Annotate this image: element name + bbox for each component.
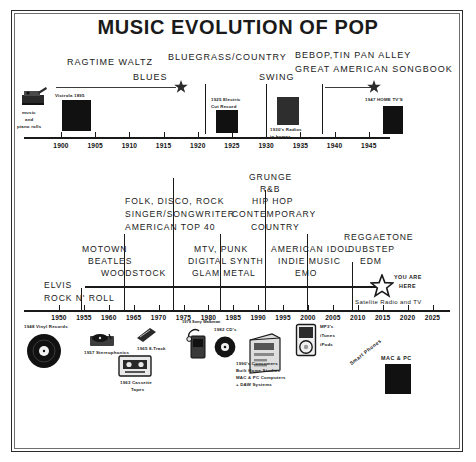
star-icon-bebop bbox=[367, 80, 381, 94]
caption-consumers-l4: + DAW Systems bbox=[236, 382, 272, 388]
caption-cassette-l2: Tapes bbox=[131, 387, 144, 393]
label-you-are-here-l1: YOU ARE bbox=[394, 274, 422, 280]
axis-tick bbox=[198, 132, 199, 137]
era-label-ragtime-line1: RAGTIME WALTZ bbox=[67, 57, 153, 67]
axis-year-label: 1970 bbox=[149, 314, 169, 321]
victrola-photo bbox=[62, 100, 91, 131]
axis-tick bbox=[84, 305, 85, 310]
mac-pc-photo bbox=[385, 364, 411, 394]
caption-music-rolls-l2: and bbox=[25, 117, 33, 123]
axis-tick bbox=[283, 305, 284, 310]
axis-tick bbox=[308, 305, 309, 310]
caption-radios-l1: 1930's Radios bbox=[270, 127, 302, 133]
vinyl-record-icon bbox=[26, 333, 62, 369]
axis-year-label: 1930 bbox=[256, 142, 276, 149]
era-divider-1957 bbox=[81, 288, 82, 310]
axis-year-label: 2020 bbox=[398, 314, 418, 321]
era-label-reggaetone: REGGAETONE bbox=[344, 232, 414, 242]
axis-year-label: 1940 bbox=[325, 142, 345, 149]
axis-tick bbox=[300, 132, 301, 137]
axis-tick bbox=[61, 132, 62, 137]
axis-year-label: 1960 bbox=[99, 314, 119, 321]
era-label-grunge-l5: COUNTRY bbox=[251, 222, 300, 232]
era-divider-2010 bbox=[307, 234, 308, 310]
caption-mp3-l3: iPods bbox=[320, 342, 333, 348]
axis-tick bbox=[258, 305, 259, 310]
caption-mac-pc: MAC & PC bbox=[381, 355, 412, 361]
home-tv-photo bbox=[383, 106, 403, 134]
axis-year-label: 2000 bbox=[298, 314, 318, 321]
era-label-ragtime-line2: BLUES bbox=[133, 72, 168, 82]
era-divider-1999 bbox=[265, 190, 266, 310]
era-arrow-bebop-line bbox=[325, 87, 373, 88]
axis-year-label: 1995 bbox=[273, 314, 293, 321]
axis-tick bbox=[184, 305, 185, 310]
era-label-mtv-l2: DIGITAL SYNTH bbox=[188, 256, 264, 266]
axis-tick bbox=[369, 132, 370, 137]
axis-tick bbox=[95, 132, 96, 137]
axis-tick bbox=[129, 132, 130, 137]
era-label-bluegrass: BLUEGRASS/COUNTRY bbox=[168, 52, 287, 62]
bottom-axis-line bbox=[24, 310, 450, 312]
era-label-motown-l1: MOTOWN bbox=[82, 244, 127, 254]
era-divider-1930 bbox=[266, 84, 267, 134]
axis-tick bbox=[109, 305, 110, 310]
axis-year-label: 1990 bbox=[248, 314, 268, 321]
axis-year-label: 1985 bbox=[223, 314, 243, 321]
era-label-folk-l3: AMERICAN TOP 40 bbox=[125, 222, 215, 232]
axis-year-label: 1920 bbox=[188, 142, 208, 149]
axis-tick bbox=[164, 132, 165, 137]
caption-electric-cut-l1: 1925 Electric bbox=[211, 97, 240, 103]
axis-tick bbox=[433, 305, 434, 310]
axis-tick bbox=[383, 305, 384, 310]
caption-music-rolls-l1: music bbox=[22, 110, 36, 116]
caption-consumers-l2: Built Home Studios bbox=[236, 368, 280, 374]
axis-year-label: 1905 bbox=[85, 142, 105, 149]
axis-tick bbox=[408, 305, 409, 310]
era-label-grunge-l3: HIP HOP bbox=[252, 196, 293, 206]
era-label-elvis-l1: ELVIS bbox=[44, 280, 72, 290]
axis-year-label: 1910 bbox=[119, 142, 139, 149]
star-icon-ragtime bbox=[174, 80, 188, 94]
caption-eight-track: 1965 8-Track bbox=[137, 346, 166, 352]
era-label-idol-l2: INDIE MUSIC bbox=[278, 256, 341, 266]
axis-tick bbox=[134, 305, 135, 310]
caption-walkman: 1979 Sony Walkman bbox=[182, 319, 220, 324]
caption-cassette-l1: 1963 Cassette bbox=[120, 380, 152, 386]
caption-mp3-l1: MP3's bbox=[320, 324, 334, 330]
axis-year-label: 1935 bbox=[290, 142, 310, 149]
era-label-grunge-l1: GRUNGE bbox=[249, 172, 292, 182]
era-label-motown-l2: BEATLES bbox=[88, 256, 132, 266]
caption-home-tv: 1947 HOME TV'S bbox=[365, 97, 403, 103]
caption-victrola: Victrola 1895 bbox=[55, 93, 85, 99]
electric-cut-record-photo bbox=[216, 110, 238, 133]
axis-year-label: 1965 bbox=[124, 314, 144, 321]
walkman-icon bbox=[186, 326, 208, 360]
page-title: MUSIC EVOLUTION OF POP bbox=[0, 16, 476, 39]
era-label-bebop-line2: GREAT AMERICAN SONGBOOK bbox=[295, 64, 453, 74]
axis-tick bbox=[208, 305, 209, 310]
era-label-mtv-l1: MTV, PUNK bbox=[194, 244, 248, 254]
phonograph-icon bbox=[20, 86, 48, 106]
turntable-icon bbox=[89, 330, 115, 348]
axis-year-label: 1900 bbox=[51, 142, 71, 149]
axis-tick bbox=[333, 305, 334, 310]
label-you-are-here-l2: HERE bbox=[399, 283, 416, 289]
era-spine-line bbox=[85, 286, 379, 288]
axis-year-label: 1950 bbox=[49, 314, 69, 321]
caption-vinyl: 1948 Vinyl Records bbox=[24, 324, 68, 330]
caption-consumers-l1: 1990's Consumers bbox=[236, 361, 278, 367]
infographic-page: MUSIC EVOLUTION OF POP RAGTIME WALTZ BLU… bbox=[0, 0, 476, 462]
era-label-mtv-l3: GLAM METAL bbox=[192, 268, 256, 278]
ipod-icon bbox=[295, 323, 317, 357]
axis-year-label: 1945 bbox=[359, 142, 379, 149]
era-label-idol-l1: AMERICAN IDOL bbox=[271, 244, 351, 254]
axis-year-label: 1955 bbox=[74, 314, 94, 321]
axis-year-label: 1925 bbox=[222, 142, 242, 149]
era-label-motown-l3: WOODSTOCK bbox=[101, 268, 166, 278]
era-divider-1968 bbox=[124, 234, 125, 310]
era-label-swing: SWING bbox=[259, 72, 295, 82]
axis-year-label: 2025 bbox=[423, 314, 443, 321]
axis-tick bbox=[59, 305, 60, 310]
radios-photo bbox=[277, 97, 299, 125]
